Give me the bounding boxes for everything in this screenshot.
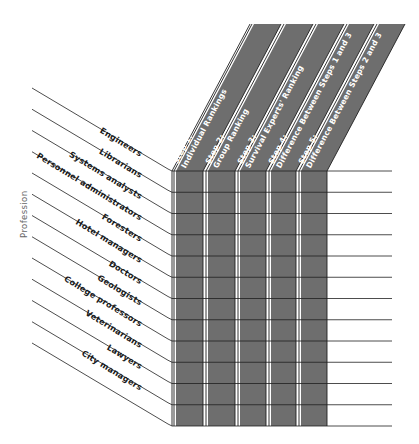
ranking-worksheet-diagram: EngineersLibrariansSystems analystsPerso…: [0, 0, 419, 444]
worksheet-canvas: EngineersLibrariansSystems analystsPerso…: [0, 0, 419, 444]
axis-label-profession: Profession: [19, 190, 29, 238]
row-labels: EngineersLibrariansSystems analystsPerso…: [35, 125, 144, 392]
